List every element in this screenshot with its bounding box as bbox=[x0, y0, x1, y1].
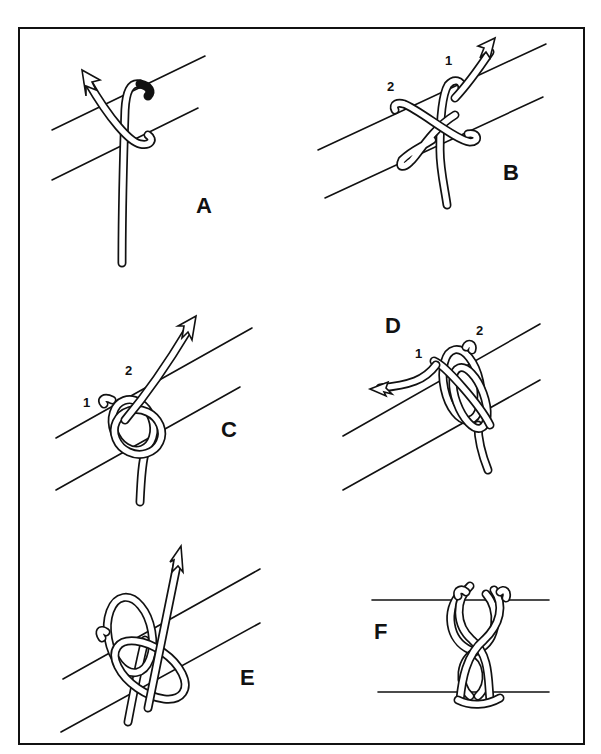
panel-label-b: B bbox=[503, 162, 519, 184]
panel-label-f: F bbox=[374, 621, 387, 643]
panel-d-strand-1: 1 bbox=[415, 347, 422, 360]
panel-c-strand-1: 1 bbox=[83, 396, 90, 409]
panel-label-e: E bbox=[240, 667, 255, 689]
bar-bottom-edge bbox=[343, 380, 540, 490]
panel-b-strand-2: 2 bbox=[387, 80, 394, 93]
diagram-canvas bbox=[0, 0, 601, 754]
arrow-icon bbox=[170, 546, 183, 572]
panel-c-strand-2: 2 bbox=[125, 364, 132, 377]
panel-label-d: D bbox=[385, 315, 401, 337]
panel-b-strand-1: 1 bbox=[445, 54, 452, 67]
panel-label-a: A bbox=[196, 195, 212, 217]
panel-label-c: C bbox=[221, 419, 237, 441]
panel-d-drawing bbox=[343, 324, 540, 490]
panel-e-drawing bbox=[61, 546, 260, 732]
panel-a-drawing bbox=[52, 56, 205, 263]
knot-diagram: A B C D E F 1 2 1 2 1 2 bbox=[0, 0, 601, 754]
panel-d-strand-2: 2 bbox=[476, 324, 483, 337]
panel-f-drawing bbox=[372, 586, 549, 704]
